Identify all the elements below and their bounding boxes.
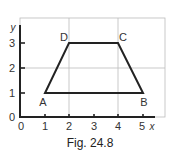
svg-text:3: 3	[91, 120, 97, 132]
x-tick-labels: 0 1 2 3 4 5 x	[18, 120, 156, 132]
y-axis-label: y	[10, 22, 17, 33]
svg-text:5: 5	[139, 120, 145, 132]
svg-text:3: 3	[9, 37, 15, 49]
x-axis-label: x	[149, 121, 156, 132]
point-label-d: D	[60, 31, 68, 43]
svg-text:1: 1	[9, 87, 15, 99]
point-label-b: B	[140, 96, 147, 108]
svg-text:4: 4	[115, 120, 121, 132]
svg-text:1: 1	[42, 120, 48, 132]
y-tick-labels: 0 1 2 3 y	[9, 22, 17, 123]
svg-text:0: 0	[9, 111, 15, 123]
svg-text:2: 2	[9, 62, 15, 74]
figure: 0 1 2 3 4 5 x 0 1 2 3 y A B C D Fig. 24.…	[0, 0, 174, 152]
figure-caption: Fig. 24.8	[67, 136, 114, 150]
point-label-c: C	[119, 31, 127, 43]
svg-text:2: 2	[66, 120, 72, 132]
svg-text:0: 0	[18, 120, 24, 132]
point-label-a: A	[39, 96, 47, 108]
